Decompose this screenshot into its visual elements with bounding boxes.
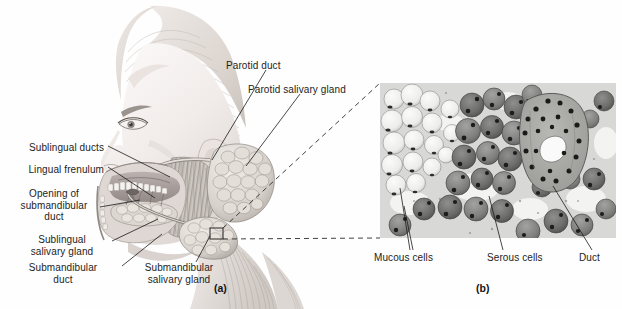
label-duct: Duct	[579, 252, 600, 264]
salivary-gland-figure: Parotid duct Parotid salivary gland Subl…	[0, 0, 622, 309]
label-mucous-cells: Mucous cells	[374, 252, 433, 264]
leader-mucous-cells	[400, 188, 410, 250]
panel-b-caption: (b)	[476, 282, 489, 294]
leader-mucous-cells-2	[404, 206, 413, 250]
leader-duct	[553, 186, 592, 250]
label-serous-cells: Serous cells	[487, 252, 543, 264]
leader-serous-cells	[489, 196, 503, 250]
